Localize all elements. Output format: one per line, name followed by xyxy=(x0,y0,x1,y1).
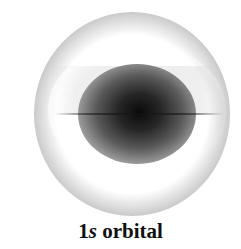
label-word: orbital xyxy=(97,219,163,243)
orbital-figure: 1s orbital xyxy=(0,0,241,249)
cross-section-line xyxy=(54,113,224,115)
orbital-label: 1s orbital xyxy=(0,219,241,244)
label-number: 1 xyxy=(78,219,89,243)
label-subshell: s xyxy=(89,219,97,243)
